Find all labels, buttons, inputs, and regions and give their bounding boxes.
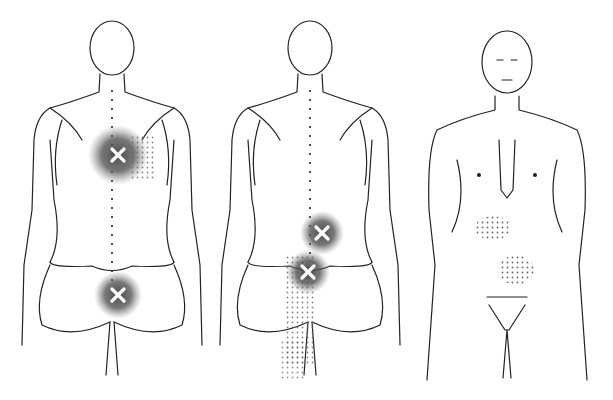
figure-anterior — [427, 31, 587, 380]
referred-pain-zone — [475, 216, 511, 240]
referred-pain-zone — [498, 255, 534, 285]
figure-posterior-1 — [22, 21, 202, 375]
body-figures — [0, 0, 613, 400]
trigger-point-diagram — [0, 0, 613, 400]
